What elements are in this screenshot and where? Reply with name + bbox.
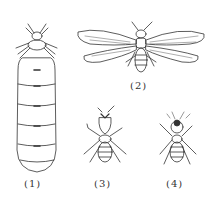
figure-label-4: (4) [166, 178, 183, 189]
winged-reproductive-figure [78, 22, 204, 72]
worker-figure [160, 112, 196, 164]
figure-label-3: (3) [94, 178, 111, 189]
queen-figure [16, 24, 57, 172]
termite-castes-diagram: (1) (2) (3) (4) [0, 0, 213, 207]
soldier-figure [84, 106, 126, 162]
figure-label-2: (2) [130, 80, 147, 91]
drawing [0, 0, 213, 207]
figure-label-1: (1) [24, 178, 41, 189]
